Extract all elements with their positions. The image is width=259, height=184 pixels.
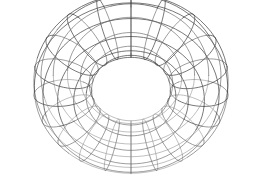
torus-wireframe-svg — [0, 0, 259, 184]
figure-root: Wireframe torus — [0, 0, 259, 184]
figure-background — [0, 0, 259, 184]
